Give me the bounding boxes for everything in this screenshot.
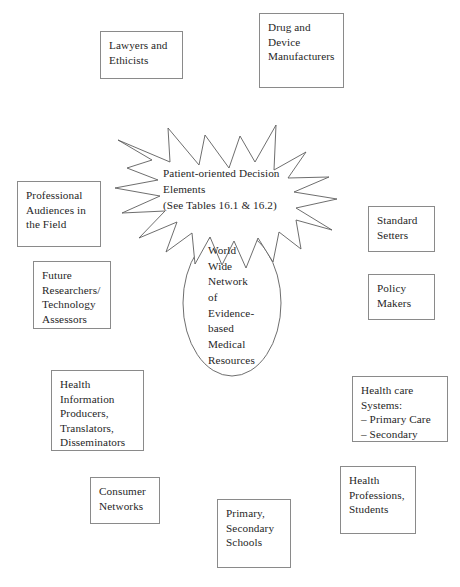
starburst-label: Patient-oriented Decision Elements (See …: [163, 166, 323, 214]
node-future-researchers-technology-assessors[interactable]: Future Researchers/ Technology Assessors: [33, 261, 111, 329]
node-health-professions-students[interactable]: Health Professions, Students: [340, 466, 416, 534]
node-primary-secondary-schools[interactable]: Primary, Secondary Schools: [217, 499, 291, 568]
node-drug-and-device-manufacturers[interactable]: Drug and Device Manufacturers: [259, 13, 344, 88]
oval-label: World Wide Network of Evidence- based Me…: [208, 243, 280, 368]
node-standard-setters[interactable]: Standard Setters: [368, 206, 435, 252]
diagram-canvas: Patient-oriented Decision Elements (See …: [0, 0, 460, 587]
node-policy-makers[interactable]: Policy Makers: [368, 274, 435, 320]
node-health-information-producers[interactable]: Health Information Producers, Translator…: [51, 370, 144, 451]
node-consumer-networks[interactable]: Consumer Networks: [90, 477, 160, 524]
node-lawyers-and-ethicists[interactable]: Lawyers and Ethicists: [100, 31, 183, 79]
node-professional-audiences-in-the-field[interactable]: Professional Audiences in the Field: [17, 181, 101, 247]
node-health-care-systems[interactable]: Health care Systems: – Primary Care – Se…: [352, 376, 448, 442]
